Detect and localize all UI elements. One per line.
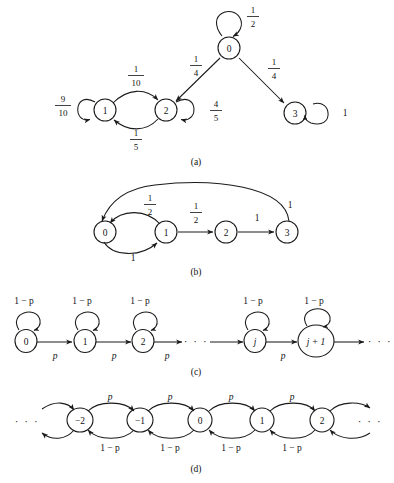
edge-label-a-3-self: 1 [343, 108, 348, 118]
edge-label-d-1-2: p [289, 392, 295, 402]
svg-text:2: 2 [251, 19, 256, 29]
state-label: 1 [260, 416, 265, 426]
edge-label-c-0-self: 1 − p [14, 296, 34, 306]
state-node-d-minus1[interactable]: −1 [127, 408, 153, 432]
svg-text:4: 4 [272, 71, 277, 81]
edge-d-0-1 [209, 403, 255, 411]
edge-label-b-3-0: 1 [288, 200, 293, 210]
state-node-a-0[interactable]: 0 [218, 37, 240, 59]
panel-d: p p p p 1 − p 1 − p 1 − p 1 − p · · · · … [15, 392, 383, 475]
edge-a-1-2 [113, 91, 158, 103]
state-node-b-2[interactable]: 2 [215, 221, 237, 243]
state-label: 0 [227, 44, 232, 54]
edge-label-b-1-2: 1 2 [190, 201, 202, 225]
edge-label-b-0-1: 1 2 [144, 193, 156, 217]
edge-c-j-self [245, 312, 269, 330]
edge-label-d-0-m1: 1 − p [160, 443, 180, 453]
edge-label-c-0-1: p [52, 351, 58, 361]
edge-label-a-1-self: 9 10 [55, 94, 71, 118]
state-node-d-1[interactable]: 1 [250, 408, 274, 432]
state-node-c-1[interactable]: 1 [74, 330, 96, 353]
edge-label-c-1-2: p [111, 351, 117, 361]
edge-label-c-2-dots: p [164, 351, 170, 361]
svg-text:1: 1 [251, 5, 256, 15]
edge-label-a-0-2: 1 4 [190, 54, 202, 78]
edge-label-b-2-3: 1 [255, 213, 260, 223]
edge-label-d-m2-m1: p [107, 392, 113, 402]
edge-a-3-self [305, 103, 328, 124]
state-node-c-j-plus-1[interactable]: j + 1 [298, 325, 334, 357]
edge-c-j1-self [305, 309, 331, 327]
edge-a-1-self [78, 99, 95, 119]
state-label: 0 [103, 228, 108, 238]
edge-label-c-j-j1: p [280, 351, 286, 361]
state-node-c-j[interactable]: j [244, 330, 266, 353]
edge-label-c-1-self: 1 − p [72, 296, 92, 306]
state-node-c-0[interactable]: 0 [15, 330, 37, 353]
svg-text:1: 1 [194, 54, 199, 64]
state-node-c-2[interactable]: 2 [132, 330, 154, 353]
edge-label-a-1-2: 1 10 [128, 64, 144, 88]
state-label: 3 [285, 228, 290, 238]
state-node-b-3[interactable]: 3 [276, 221, 298, 243]
state-label: j + 1 [305, 337, 326, 347]
edge-label-a-0-self: 1 2 [247, 5, 259, 29]
edge-label-a-0-3: 1 4 [268, 57, 280, 81]
state-node-b-1[interactable]: 1 [155, 221, 177, 243]
state-label: 2 [320, 416, 325, 426]
edge-label-c-2-self: 1 − p [130, 296, 150, 306]
state-node-d-minus2[interactable]: −2 [67, 408, 93, 432]
svg-text:1: 1 [134, 128, 139, 138]
panel-b: 1 1 2 1 1 2 1 0 [94, 183, 298, 278]
edge-label-b-1-0: 1 [131, 253, 136, 263]
state-label: 2 [164, 106, 169, 116]
state-node-b-0[interactable]: 0 [94, 221, 116, 243]
edge-d-left-out [42, 430, 74, 438]
edge-a-0-self [216, 12, 241, 37]
svg-text:2: 2 [194, 215, 199, 225]
edge-label-c-j-self: 1 − p [243, 296, 263, 306]
state-node-a-2[interactable]: 2 [155, 99, 177, 121]
caption-b: (b) [190, 267, 201, 278]
edge-label-a-2-1: 1 5 [130, 128, 142, 152]
state-label: −2 [75, 416, 85, 426]
svg-text:1: 1 [134, 64, 139, 74]
ellipsis-d-left: · · · [15, 415, 40, 427]
edge-label-d-m1-m2: 1 − p [100, 443, 120, 453]
edge-d-right-out [330, 403, 370, 411]
edge-label-d-m1-0: p [167, 392, 173, 402]
caption-d: (d) [190, 464, 201, 475]
state-node-a-3[interactable]: 3 [284, 102, 306, 124]
edge-b-1-0 [104, 242, 157, 253]
edge-d-m1-m2 [88, 430, 134, 438]
panel-a: 1 2 1 4 1 4 9 10 [55, 5, 348, 168]
edge-a-0-2 [176, 58, 220, 101]
edge-c-0-self [16, 312, 40, 330]
state-node-d-0[interactable]: 0 [188, 408, 212, 432]
edge-d-left-in [42, 403, 74, 410]
svg-text:4: 4 [194, 68, 199, 78]
ellipsis-c-right: · · · [368, 335, 393, 347]
edge-d-1-0 [209, 430, 255, 438]
state-node-a-1[interactable]: 1 [94, 99, 116, 121]
edge-a-0-3 [239, 58, 284, 103]
svg-text:9: 9 [61, 94, 66, 104]
svg-text:10: 10 [59, 108, 69, 118]
svg-text:2: 2 [148, 207, 153, 217]
figure-page: 1 2 1 4 1 4 9 10 [0, 0, 394, 483]
svg-text:10: 10 [132, 78, 142, 88]
state-label: 2 [224, 228, 229, 238]
state-label: 0 [198, 416, 203, 426]
state-label: j [252, 337, 257, 347]
state-label: 1 [103, 106, 108, 116]
edge-label-d-1-0: 1 − p [221, 443, 241, 453]
state-node-d-2[interactable]: 2 [310, 408, 334, 432]
edge-d-1-2 [270, 403, 315, 411]
edge-d-2-1 [270, 430, 315, 438]
edge-label-a-2-self: 4 5 [210, 99, 222, 123]
edge-d-0-m1 [148, 430, 194, 438]
caption-c: (c) [191, 367, 202, 378]
edge-label-d-2-1: 1 − p [282, 443, 302, 453]
svg-text:5: 5 [134, 142, 139, 152]
panel-c: 1 − p 1 − p 1 − p 1 − p 1 − p p p p p · … [14, 296, 392, 378]
